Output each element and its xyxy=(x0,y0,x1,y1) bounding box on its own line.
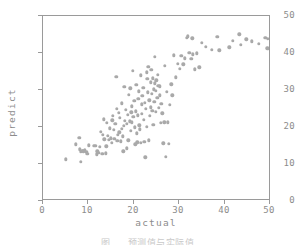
scatter-point xyxy=(114,122,117,125)
scatter-point xyxy=(126,113,129,116)
scatter-point xyxy=(158,85,161,88)
x-tick-mark xyxy=(42,200,43,204)
scatter-point xyxy=(136,113,139,116)
scatter-point xyxy=(171,94,174,97)
scatter-point xyxy=(112,128,115,131)
scatter-point xyxy=(122,150,125,153)
scatter-point xyxy=(161,112,164,115)
scatter-point xyxy=(129,129,132,132)
scatter-point xyxy=(146,91,149,94)
scatter-point xyxy=(216,35,219,38)
scatter-point xyxy=(186,34,189,37)
scatter-point xyxy=(170,83,173,86)
scatter-point xyxy=(134,143,137,146)
scatter-point xyxy=(120,127,123,130)
scatter-point xyxy=(162,142,165,145)
scatter-point xyxy=(166,120,169,123)
scatter-point xyxy=(116,133,119,136)
scatter-point xyxy=(218,49,221,52)
scatter-point xyxy=(138,128,141,131)
scatter-point xyxy=(105,121,108,124)
scatter-point xyxy=(110,141,113,144)
scatter-point xyxy=(131,69,134,72)
scatter-point xyxy=(172,53,175,56)
scatter-point xyxy=(140,112,143,115)
scatter-point xyxy=(204,45,207,48)
scatter-point xyxy=(142,86,145,89)
x-tick-mark xyxy=(178,200,179,204)
scatter-point xyxy=(103,138,106,141)
scatter-point xyxy=(198,66,201,69)
scatter-point xyxy=(141,94,144,97)
scatter-point xyxy=(149,81,152,84)
scatter-point xyxy=(124,108,127,111)
scatter-point xyxy=(122,124,125,127)
scatter-point xyxy=(144,107,147,110)
scatter-point xyxy=(193,68,196,71)
scatter-point xyxy=(174,76,177,79)
scatter-point xyxy=(121,135,124,138)
scatter-point xyxy=(148,98,151,101)
scatter-point xyxy=(152,123,155,126)
scatter-point xyxy=(145,125,148,128)
scatter-point xyxy=(143,140,146,143)
x-tick-label: 30 xyxy=(163,205,193,215)
scatter-point xyxy=(190,37,193,40)
scatter-point xyxy=(195,52,198,55)
scatter-point xyxy=(129,87,132,90)
scatter-point xyxy=(101,133,104,136)
scatter-point xyxy=(145,71,148,74)
scatter-point xyxy=(231,39,234,42)
scatter-point xyxy=(64,158,67,161)
scatter-point xyxy=(178,67,181,70)
scatter-point xyxy=(176,62,179,65)
scatter-point xyxy=(79,160,82,163)
scatter-point xyxy=(138,124,141,127)
scatter-point xyxy=(181,63,184,66)
scatter-point xyxy=(118,131,121,134)
scatter-point xyxy=(134,109,137,112)
scatter-point xyxy=(245,38,248,41)
scatter-point xyxy=(74,143,77,146)
scatter-point xyxy=(105,145,108,148)
x-tick-label: 20 xyxy=(118,205,148,215)
scatter-point xyxy=(104,152,107,155)
x-tick-label: 10 xyxy=(72,205,102,215)
scatter-point xyxy=(158,94,161,97)
scatter-point xyxy=(142,118,145,121)
scatter-point xyxy=(137,97,140,100)
scatter-point xyxy=(127,139,130,142)
scatter-point xyxy=(148,114,151,117)
scatter-point xyxy=(98,145,101,148)
scatter-point xyxy=(77,136,80,139)
x-tick-mark xyxy=(224,200,225,204)
scatter-point xyxy=(228,46,231,49)
scatter-point xyxy=(147,139,150,142)
scatter-point xyxy=(210,48,213,51)
scatter-point xyxy=(265,47,268,50)
scatter-point xyxy=(94,144,97,147)
x-axis-title: actual xyxy=(42,217,270,228)
scatter-point xyxy=(130,105,133,108)
scatter-point xyxy=(118,116,121,119)
scatter-point xyxy=(135,132,138,135)
scatter-point xyxy=(86,152,89,155)
scatter-point xyxy=(133,126,136,129)
scatter-point xyxy=(111,114,114,117)
plot-area xyxy=(42,15,270,200)
scatter-point xyxy=(127,93,130,96)
scatter-point xyxy=(190,57,193,60)
scatter-point xyxy=(150,68,153,71)
scatter-point xyxy=(164,155,167,158)
scatter-point xyxy=(143,101,146,104)
scatter-point xyxy=(120,102,123,105)
x-tick-mark xyxy=(87,200,88,204)
figure-caption: 图 预测值与实际值 xyxy=(0,236,295,245)
x-tick-label: 0 xyxy=(27,205,57,215)
scatter-point xyxy=(130,120,133,123)
scatter-point xyxy=(134,83,137,86)
y-axis-title: predict xyxy=(6,78,17,148)
scatter-point xyxy=(137,90,140,93)
x-tick-mark xyxy=(269,200,270,204)
x-tick-label: 40 xyxy=(209,205,239,215)
